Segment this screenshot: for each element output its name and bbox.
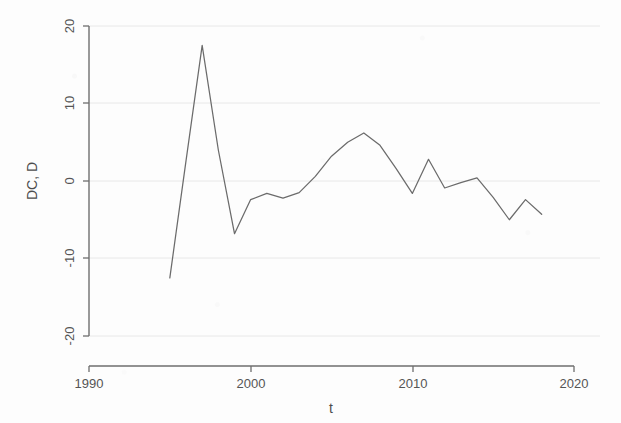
x-tick-label-2010: 2010 bbox=[399, 376, 428, 391]
y-axis-title: DC, D bbox=[24, 162, 40, 200]
x-axis: 1990 2000 2010 2020 t bbox=[75, 366, 589, 416]
y-tick-label-20: 20 bbox=[62, 19, 77, 33]
y-tick-label--10: -10 bbox=[62, 249, 77, 268]
x-tick-label-1990: 1990 bbox=[75, 376, 104, 391]
chart-container: 20 10 0 -10 -20 DC, D 1990 2000 2010 202… bbox=[0, 0, 621, 423]
x-tick-label-2000: 2000 bbox=[237, 376, 266, 391]
y-axis: 20 10 0 -10 -20 DC, D bbox=[24, 19, 89, 346]
y-tick-label-0: 0 bbox=[62, 177, 77, 184]
line-chart-svg: 20 10 0 -10 -20 DC, D 1990 2000 2010 202… bbox=[0, 0, 621, 423]
y-tick-label-10: 10 bbox=[62, 96, 77, 110]
y-tick-label--20: -20 bbox=[62, 327, 77, 346]
gridlines bbox=[89, 26, 600, 336]
x-tick-label-2020: 2020 bbox=[560, 376, 589, 391]
x-axis-title: t bbox=[329, 400, 333, 416]
data-series-line bbox=[170, 45, 542, 278]
